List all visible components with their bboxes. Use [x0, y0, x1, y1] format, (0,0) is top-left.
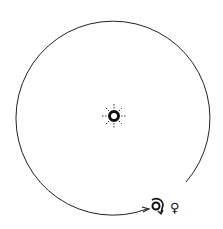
sun-icon [102, 104, 126, 128]
orbit-diagram [0, 0, 223, 229]
venus-icon: ♀ [170, 201, 180, 214]
orbit-path [16, 21, 210, 215]
rotating-body-icon [152, 199, 163, 214]
